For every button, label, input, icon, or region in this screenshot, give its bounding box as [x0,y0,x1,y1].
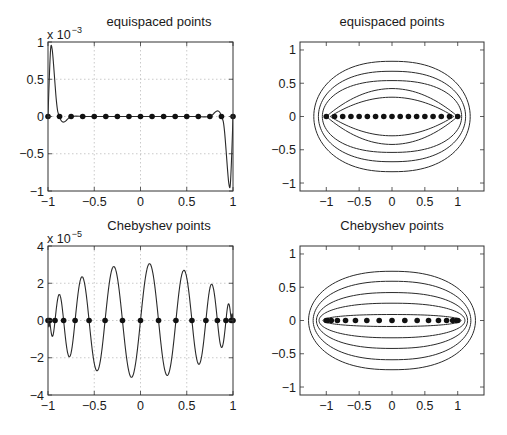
y-tick-label: 0.5 [279,281,296,295]
node-marker [402,318,408,324]
node-marker [219,114,225,120]
node-marker [328,318,334,324]
subplot-title: Chebyshev points [107,218,211,233]
node-marker [340,114,346,120]
node-marker [376,318,382,324]
node-marker [373,114,379,120]
node-marker [52,318,58,324]
y-tick-label: 0.5 [279,77,296,91]
node-marker [86,318,92,324]
node-marker [389,318,395,324]
x-tick-label: −0.5 [82,399,107,413]
node-marker [138,114,144,120]
y-tick-label: 0.5 [27,73,44,87]
node-marker [149,114,155,120]
node-marker [389,114,395,120]
node-marker [172,114,178,120]
x-tick-label: 0.5 [416,399,433,413]
y-tick-label: −0.5 [19,147,44,161]
y-tick-label: −0.5 [271,347,296,361]
node-marker [115,114,121,120]
node-marker [57,114,63,120]
node-marker [215,318,221,324]
y-tick-label: −1 [282,177,296,191]
node-marker [223,318,229,324]
node-markers [45,114,236,120]
node-marker [397,114,403,120]
node-marker [138,318,144,324]
y-exponent-label: x 10−5 [47,229,82,246]
node-marker [196,114,202,120]
x-tick-label: 1 [230,195,237,209]
x-tick-label: 0.5 [416,195,433,209]
node-marker [381,114,387,120]
node-marker [438,114,444,120]
x-tick-label: 0.5 [178,195,195,209]
x-tick-label: −0.5 [347,195,372,209]
node-marker [120,318,126,324]
node-marker [353,318,359,324]
node-marker [91,114,97,120]
x-tick-label: 0 [389,399,396,413]
x-tick-label: −0.5 [82,195,107,209]
node-marker [68,114,74,120]
x-tick-label: 0 [137,195,144,209]
node-marker [161,114,167,120]
subplot-top-left-equispaced-error: −1−0.500.51−1−0.500.51equispaced pointsx… [19,14,236,209]
y-tick-label: 1 [289,43,296,57]
y-tick-label: 4 [37,240,44,254]
y-tick-label: 1 [289,247,296,261]
subplot-title: Chebyshev points [340,218,444,233]
node-markers [323,114,460,120]
node-marker [455,114,461,120]
x-tick-label: 0 [137,399,144,413]
x-tick-label: −1 [319,399,333,413]
node-marker [207,114,213,120]
node-marker [444,318,450,324]
node-marker [156,318,162,324]
y-tick-label: 2 [37,277,44,291]
node-marker [203,318,209,324]
y-exponent-label: x 10−3 [47,25,82,42]
node-marker [343,318,349,324]
x-tick-label: 0.5 [178,399,195,413]
node-marker [364,318,370,324]
y-tick-label: 0 [37,110,44,124]
y-tick-label: 0 [289,314,296,328]
subplot-top-right-equispaced-level-curves: −1−0.500.51−1−0.500.51equispaced points [271,14,484,209]
node-marker [414,318,420,324]
node-marker [414,114,420,120]
node-marker [61,318,67,324]
y-tick-label: −2 [30,351,44,365]
y-tick-label: 1 [37,36,44,50]
y-tick-label: 0 [37,314,44,328]
node-markers [323,318,460,324]
node-marker [426,318,432,324]
node-marker [323,114,329,120]
node-markers [45,318,236,324]
subplot-title: equispaced points [340,14,445,29]
node-marker [365,114,371,120]
node-marker [356,114,362,120]
node-marker [406,114,412,120]
node-marker [430,114,436,120]
x-tick-label: 1 [230,399,237,413]
node-marker [173,318,179,324]
x-tick-label: −1 [319,195,333,209]
y-tick-label: −0.5 [271,143,296,157]
figure: −1−0.500.51−1−0.500.51equispaced pointsx… [0,0,507,435]
subplot-title: equispaced points [107,14,212,29]
node-marker [102,318,108,324]
y-tick-label: −1 [30,185,44,199]
subplot-bottom-right-chebyshev-level-curves: −1−0.500.51−1−0.500.51Chebyshev points [271,218,484,413]
node-marker [436,318,442,324]
node-marker [422,114,428,120]
node-marker [335,318,341,324]
node-marker [348,114,354,120]
node-marker [455,318,461,324]
node-marker [447,114,453,120]
subplot-bottom-left-chebyshev-error: −1−0.500.51−4−2024Chebyshev pointsx 10−5 [30,218,237,413]
node-marker [189,318,195,324]
node-marker [184,114,190,120]
y-tick-label: −1 [282,381,296,395]
